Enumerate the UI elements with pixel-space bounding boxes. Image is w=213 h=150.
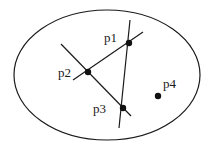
line-p1-p3 [119, 20, 130, 128]
point-p2 [85, 69, 91, 75]
label-p1: p1 [104, 30, 117, 45]
labels-group: p1p2p3p4 [58, 30, 177, 116]
diagram-canvas: p1p2p3p4 [0, 0, 213, 150]
label-p3: p3 [93, 101, 106, 116]
point-p3 [120, 105, 126, 111]
label-p2: p2 [58, 65, 71, 80]
point-p1 [126, 40, 132, 46]
label-p4: p4 [163, 76, 177, 91]
point-p4 [155, 93, 161, 99]
